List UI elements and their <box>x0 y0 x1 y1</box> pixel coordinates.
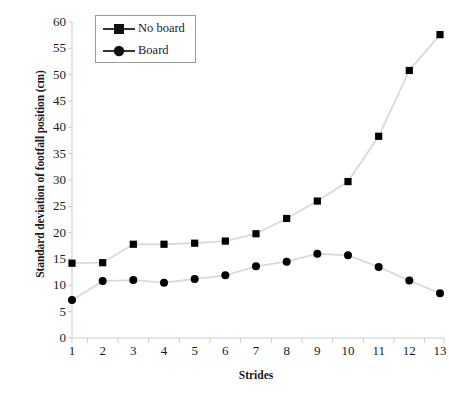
chart-legend: No board Board <box>95 15 196 63</box>
series-line-1 <box>72 254 440 300</box>
data-point-marker <box>160 241 167 248</box>
data-point-marker <box>68 260 75 267</box>
x-tick-label: 4 <box>149 344 179 357</box>
data-point-marker <box>344 251 352 259</box>
x-tick-label: 9 <box>302 344 332 357</box>
data-point-marker <box>221 271 229 279</box>
figure-caption <box>4 400 304 411</box>
x-tick-label: 3 <box>118 344 148 357</box>
data-point-marker <box>375 263 383 271</box>
x-axis-title: Strides <box>72 369 440 381</box>
data-point-marker <box>222 237 229 244</box>
data-point-marker <box>344 178 351 185</box>
legend-label-no-board: No board <box>138 21 185 36</box>
legend-circle-marker-icon <box>102 40 136 62</box>
data-point-marker <box>252 230 259 237</box>
x-tick-label: 12 <box>394 344 424 357</box>
axis-ticks <box>68 22 444 343</box>
x-tick-label: 7 <box>241 344 271 357</box>
data-point-marker <box>283 258 291 266</box>
legend-label-board: Board <box>138 43 169 58</box>
series-line-0 <box>72 35 440 264</box>
data-point-marker <box>191 240 198 247</box>
legend-entry-board: Board <box>96 40 197 62</box>
x-tick-label: 6 <box>210 344 240 357</box>
chart-figure: Standard deviation of footfall position … <box>0 0 449 411</box>
data-point-marker <box>252 262 260 270</box>
data-point-marker <box>406 67 413 74</box>
data-point-marker <box>375 133 382 140</box>
data-point-marker <box>436 289 444 297</box>
data-point-marker <box>68 296 76 304</box>
x-tick-label: 5 <box>180 344 210 357</box>
x-tick-label: 2 <box>88 344 118 357</box>
data-point-marker <box>99 259 106 266</box>
data-point-marker <box>130 241 137 248</box>
x-axis-tick-labels: 12345678910111213 <box>0 344 449 364</box>
data-point-marker <box>314 197 321 204</box>
x-tick-label: 13 <box>425 344 449 357</box>
data-series-group <box>68 31 444 304</box>
legend-square-marker-icon <box>102 18 136 40</box>
data-point-marker <box>405 277 413 285</box>
data-point-marker <box>283 215 290 222</box>
data-point-marker <box>129 276 137 284</box>
x-tick-label: 1 <box>57 344 87 357</box>
x-tick-label: 10 <box>333 344 363 357</box>
data-point-marker <box>313 250 321 258</box>
x-tick-label: 11 <box>364 344 394 357</box>
legend-entry-no-board: No board <box>96 18 197 40</box>
data-point-marker <box>436 31 443 38</box>
data-point-marker <box>99 277 107 285</box>
x-tick-label: 8 <box>272 344 302 357</box>
data-point-marker <box>191 275 199 283</box>
data-point-marker <box>160 279 168 287</box>
axis-lines <box>72 22 444 338</box>
